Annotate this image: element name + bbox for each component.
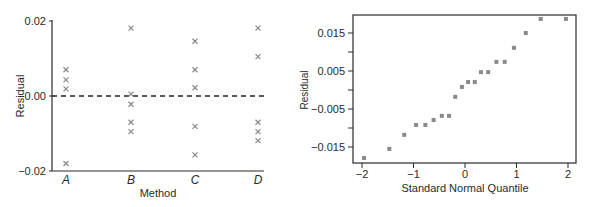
y-tick-label: 0.015 [317, 27, 345, 39]
y-tick-label: 0.005 [317, 65, 345, 77]
x-marker [129, 129, 134, 134]
square-marker [539, 17, 543, 21]
x-marker [129, 120, 134, 125]
category-label: D [254, 173, 263, 187]
right-y-ticks: 0.0150.005−0.005−0.015 [311, 27, 353, 153]
right-data-points [362, 17, 568, 160]
x-marker [64, 86, 69, 91]
square-marker [453, 95, 457, 99]
right-y-axis-title: Residual [299, 71, 310, 110]
x-marker [256, 138, 261, 143]
y-tick-label: 0.02 [25, 15, 46, 27]
left-y-axis-title: Residual [14, 75, 26, 118]
left-x-axis-title: Method [140, 187, 177, 199]
square-marker [432, 118, 436, 122]
x-tick-label: 0 [462, 168, 468, 180]
x-marker [129, 92, 134, 97]
y-tick-label: −0.02 [18, 165, 46, 177]
category-label: A [61, 173, 70, 187]
x-tick-label: 2 [565, 168, 571, 180]
normal-quantile-plot: 0.0150.005−0.005−0.015 −2−1012 Standard … [299, 15, 576, 194]
x-marker [64, 67, 69, 72]
figure: 0.020.00−0.02 ABCD Method Residual 0.015… [0, 0, 591, 207]
x-marker [64, 161, 69, 166]
square-marker [440, 114, 444, 118]
left-category-labels: ABCD [61, 173, 263, 187]
x-marker [256, 26, 261, 31]
square-marker [447, 114, 451, 118]
square-marker [494, 60, 498, 64]
category-label: C [191, 173, 200, 187]
square-marker [414, 123, 418, 127]
square-marker [564, 17, 568, 21]
square-marker [512, 46, 516, 50]
x-marker [256, 129, 261, 134]
x-marker [64, 77, 69, 82]
x-tick-label: −2 [356, 168, 369, 180]
x-marker [256, 120, 261, 125]
square-marker [362, 156, 366, 160]
x-marker [129, 102, 134, 107]
x-marker [193, 124, 198, 129]
square-marker [473, 80, 477, 84]
category-label: B [127, 173, 135, 187]
y-tick-label: −0.015 [311, 141, 345, 153]
right-plot-frame [353, 15, 576, 163]
x-tick-label: 1 [513, 168, 519, 180]
x-marker [193, 67, 198, 72]
x-marker [193, 85, 198, 90]
y-tick-label: 0.00 [25, 90, 46, 102]
square-marker [423, 123, 427, 127]
right-x-axis-title: Standard Normal Quantile [401, 182, 528, 194]
square-marker [524, 31, 528, 35]
square-marker [479, 70, 483, 74]
residual-by-method-chart: 0.020.00−0.02 ABCD Method Residual [14, 15, 264, 199]
square-marker [503, 60, 507, 64]
x-tick-label: −1 [407, 168, 420, 180]
x-marker [193, 39, 198, 44]
x-marker [256, 54, 261, 59]
square-marker [486, 70, 490, 74]
x-marker [193, 152, 198, 157]
square-marker [466, 80, 470, 84]
square-marker [402, 133, 406, 137]
square-marker [387, 147, 391, 151]
square-marker [460, 85, 464, 89]
x-marker [129, 26, 134, 31]
right-x-ticks: −2−1012 [356, 163, 571, 180]
y-tick-label: −0.005 [311, 103, 345, 115]
